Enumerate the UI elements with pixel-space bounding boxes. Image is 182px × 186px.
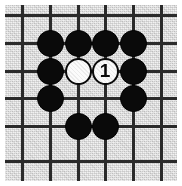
stone-black-8	[37, 85, 64, 112]
grid-line-horizontal-3	[5, 97, 177, 100]
grid-line-horizontal-5	[5, 160, 177, 163]
stone-black-7	[120, 58, 147, 85]
stone-white-numbered-1: 1	[92, 58, 119, 85]
stone-black-9	[120, 85, 147, 112]
grid-line-vertical-0	[21, 5, 24, 181]
stone-move-number: 1	[100, 61, 111, 80]
stone-white-5	[65, 58, 92, 85]
stone-black-2	[92, 30, 119, 57]
halftone-texture-overlay	[5, 5, 177, 181]
stone-black-4	[37, 58, 64, 85]
grid-line-horizontal-0	[5, 14, 177, 17]
stone-black-3	[120, 30, 147, 57]
stone-black-0	[37, 30, 64, 57]
grid-line-vertical-5	[160, 5, 163, 181]
go-board-diagram: 1	[0, 0, 182, 186]
board-surface: 1	[5, 5, 177, 181]
stone-black-10	[65, 113, 92, 140]
stone-black-1	[65, 30, 92, 57]
stone-black-11	[92, 113, 119, 140]
